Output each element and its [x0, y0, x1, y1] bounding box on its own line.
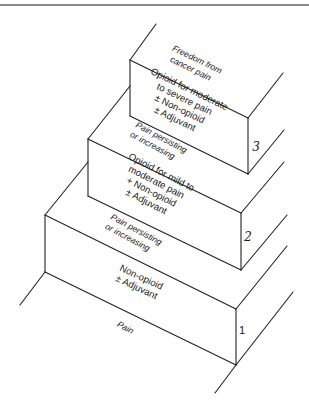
step-3-number: 3	[252, 140, 260, 154]
base-label: Pain	[115, 319, 135, 336]
analgesic-ladder-diagram: Freedom from cancer pain Opioid for mode…	[0, 0, 309, 417]
step-1-text: Non-opioid ± Adjuvant	[113, 262, 164, 302]
step-2-text: Opioid for mild to moderate pain + Non-o…	[112, 151, 197, 223]
step-2-number: 2	[243, 230, 252, 244]
step-1-number: 1	[239, 324, 245, 336]
base-label-text: Pain	[115, 319, 135, 336]
